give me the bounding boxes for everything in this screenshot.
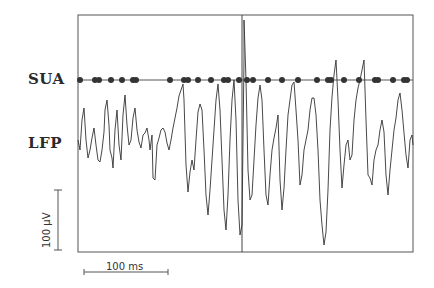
lfp-trace — [78, 20, 413, 245]
voltage-scale-label: 100 µV — [41, 212, 52, 248]
sua-spike-dot — [279, 77, 285, 83]
voltage-scale-bar — [54, 190, 62, 250]
sua-spike-dot — [133, 77, 139, 83]
sua-spike-dot — [404, 77, 410, 83]
sua-spike-dot — [356, 77, 362, 83]
time-scale-label: 100 ms — [106, 261, 143, 272]
sua-spike-dot — [108, 77, 114, 83]
sua-spike-dot — [225, 77, 231, 83]
sua-spike-dot — [96, 77, 102, 83]
sua-spike-dot — [375, 77, 381, 83]
sua-label: SUA — [28, 70, 65, 88]
sua-spike-dot — [244, 77, 250, 83]
sua-spike-dot — [295, 77, 301, 83]
sua-spike-dot — [195, 77, 201, 83]
sua-spike-dot — [265, 77, 271, 83]
sua-spike-dot — [390, 77, 396, 83]
sua-spike-dot — [77, 77, 83, 83]
sua-spike-dot — [341, 77, 347, 83]
lfp-label: LFP — [28, 134, 62, 152]
sua-spike-dot — [167, 77, 173, 83]
sua-spike-dot — [185, 77, 191, 83]
sua-spike-dot — [119, 77, 125, 83]
figure-canvas: 100 µV 100 ms — [0, 0, 434, 288]
sua-spike-dot — [236, 77, 242, 83]
sua-spike-dot — [314, 77, 320, 83]
sua-spike-dot — [208, 77, 214, 83]
sua-spike-dot — [250, 77, 256, 83]
